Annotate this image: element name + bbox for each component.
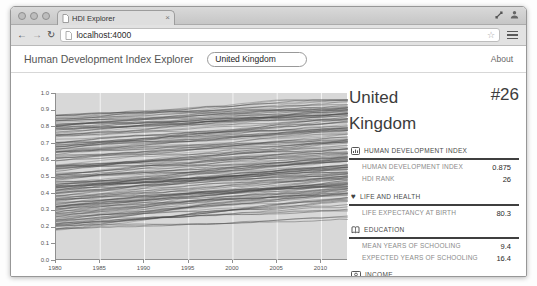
- favicon-page-icon: [62, 14, 69, 23]
- window-controls: [18, 12, 50, 20]
- section-income: INCOME GNI PER CAPITA $32538: [349, 269, 519, 277]
- forward-icon[interactable]: →: [32, 30, 42, 40]
- country-search-input[interactable]: [207, 52, 307, 67]
- y-axis-tick-label: 0.3: [23, 206, 49, 212]
- stat-value: 16.4: [496, 254, 511, 263]
- close-window-button[interactable]: [18, 12, 26, 20]
- minimize-window-button[interactable]: [30, 12, 38, 20]
- stat-row: MEAN YEARS OF SCHOOLING 9.4: [349, 239, 519, 251]
- main-area: 1.00.90.80.70.60.50.40.30.20.10.01980198…: [11, 73, 526, 276]
- browser-window: HDI Explorer × ← → ↻ localhost:4000 ☆ Hu…: [10, 6, 527, 277]
- country-detail-panel: United Kingdom #26 HUMAN DEVELOPMENT IND…: [349, 85, 519, 277]
- section-title: LIFE AND HEALTH: [360, 193, 420, 200]
- browser-tab[interactable]: HDI Explorer ×: [57, 10, 175, 25]
- bookmark-star-icon[interactable]: ☆: [487, 31, 495, 40]
- menu-icon[interactable]: [505, 29, 520, 42]
- address-bar[interactable]: localhost:4000 ☆: [60, 28, 500, 42]
- x-axis-tick-label: 2005: [266, 265, 286, 271]
- x-axis-tick: [143, 260, 144, 263]
- page-title: Human Development Index Explorer: [24, 53, 193, 65]
- section-title: HUMAN DEVELOPMENT INDEX: [364, 147, 467, 154]
- section-education: EDUCATION MEAN YEARS OF SCHOOLING 9.4 EX…: [349, 224, 519, 263]
- book-icon: [351, 226, 360, 234]
- heart-icon: ♥: [351, 192, 356, 201]
- tab-title: HDI Explorer: [72, 14, 162, 23]
- section-hdi: HUMAN DEVELOPMENT INDEX HUMAN DEVELOPMEN…: [349, 145, 519, 184]
- y-axis-tick-label: 0.2: [23, 223, 49, 229]
- y-axis-tick-label: 0.0: [23, 257, 49, 263]
- stat-label: HDI RANK: [362, 175, 395, 184]
- stat-value: 26: [503, 175, 511, 184]
- hdi-chart: 1.00.90.80.70.60.50.40.30.20.10.01980198…: [23, 87, 355, 275]
- page-content: Human Development Index Explorer About 1…: [11, 46, 526, 276]
- stat-value: 0.875: [492, 163, 511, 172]
- country-rank: #26: [491, 85, 519, 105]
- browser-toolbar: ← → ↻ localhost:4000 ☆: [11, 25, 526, 46]
- stat-label: EXPECTED YEARS OF SCHOOLING: [362, 254, 478, 263]
- y-axis-tick-label: 1.0: [23, 90, 49, 96]
- tab-close-icon[interactable]: ×: [165, 14, 170, 22]
- stat-value: 9.4: [501, 242, 511, 251]
- profile-icon[interactable]: [510, 10, 519, 19]
- banknote-icon: [351, 271, 361, 277]
- desktop: HDI Explorer × ← → ↻ localhost:4000 ☆ Hu…: [0, 0, 537, 286]
- section-title: INCOME: [365, 271, 393, 277]
- url-text: localhost:4000: [76, 30, 483, 40]
- country-name: United Kingdom: [349, 85, 457, 138]
- x-axis-tick-label: 2010: [310, 265, 330, 271]
- y-axis-tick: [51, 243, 55, 244]
- y-axis-tick-label: 0.5: [23, 173, 49, 179]
- x-axis-tick-label: 1995: [178, 265, 198, 271]
- y-axis-tick-label: 0.7: [23, 140, 49, 146]
- x-axis-tick: [276, 260, 277, 263]
- expand-icon[interactable]: [495, 11, 503, 19]
- y-axis-tick: [51, 93, 55, 94]
- x-axis-tick: [55, 260, 56, 263]
- section-life-health: ♥ LIFE AND HEALTH LIFE EXPECTANCY AT BIR…: [349, 190, 519, 218]
- zoom-window-button[interactable]: [42, 12, 50, 20]
- y-axis-tick: [51, 110, 55, 111]
- x-axis-tick-label: 1990: [133, 265, 153, 271]
- stat-row: HDI RANK 26: [349, 172, 519, 184]
- app-header: Human Development Index Explorer About: [11, 46, 526, 73]
- stat-row: LIFE EXPECTANCY AT BIRTH 80.3: [349, 206, 519, 218]
- y-axis-tick: [51, 160, 55, 161]
- x-axis-tick: [320, 260, 321, 263]
- y-axis-tick-label: 0.9: [23, 106, 49, 112]
- x-axis-tick: [99, 260, 100, 263]
- section-title: EDUCATION: [364, 226, 405, 233]
- x-axis-tick-label: 2000: [222, 265, 242, 271]
- y-axis-tick: [51, 227, 55, 228]
- x-axis-tick: [188, 260, 189, 263]
- y-axis-tick-label: 0.6: [23, 156, 49, 162]
- y-axis-tick-label: 0.4: [23, 190, 49, 196]
- y-axis-tick: [51, 143, 55, 144]
- page-icon: [65, 31, 72, 40]
- chart-plot-area[interactable]: [55, 93, 347, 260]
- browser-titlebar: HDI Explorer ×: [11, 7, 526, 25]
- stat-label: MEAN YEARS OF SCHOOLING: [362, 242, 461, 251]
- stat-value: 80.3: [496, 209, 511, 218]
- y-axis-tick-label: 0.8: [23, 123, 49, 129]
- back-icon[interactable]: ←: [17, 30, 27, 40]
- x-axis-tick-label: 1980: [45, 265, 65, 271]
- reload-icon[interactable]: ↻: [47, 30, 55, 40]
- about-link[interactable]: About: [491, 54, 513, 64]
- stat-row: HUMAN DEVELOPMENT INDEX 0.875: [349, 160, 519, 172]
- stat-row: EXPECTED YEARS OF SCHOOLING 16.4: [349, 251, 519, 263]
- bar-chart-icon: [351, 147, 360, 155]
- y-axis-tick: [51, 210, 55, 211]
- x-axis-tick: [232, 260, 233, 263]
- stat-label: LIFE EXPECTANCY AT BIRTH: [362, 209, 456, 218]
- x-axis-tick-label: 1985: [89, 265, 109, 271]
- y-axis-tick: [51, 177, 55, 178]
- y-axis-tick: [51, 193, 55, 194]
- y-axis-tick: [51, 126, 55, 127]
- y-axis-tick-label: 0.1: [23, 240, 49, 246]
- stat-label: HUMAN DEVELOPMENT INDEX: [362, 163, 463, 172]
